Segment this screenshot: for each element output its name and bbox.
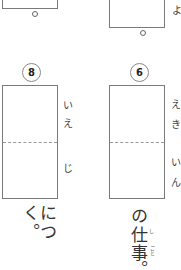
side-kana-e: え bbox=[171, 100, 181, 110]
answer-box-top-right[interactable] bbox=[109, 0, 165, 28]
side-kana-i: い bbox=[171, 158, 181, 168]
side-kana-yo: よ bbox=[172, 6, 181, 16]
answer-box-top-left[interactable] bbox=[2, 0, 58, 9]
side-kana-n: ん bbox=[171, 178, 181, 188]
furigana-shi: し bbox=[149, 229, 154, 234]
period-mark-top-left bbox=[32, 11, 38, 17]
sentence-tail-q8: につく。 bbox=[21, 204, 55, 270]
dotted-divider bbox=[3, 142, 57, 143]
dotted-divider bbox=[110, 142, 164, 143]
side-kana-ki: き bbox=[171, 120, 181, 130]
side-kana-ji: じ bbox=[63, 164, 73, 174]
period-mark-top-right bbox=[140, 30, 146, 36]
sentence-tail-shi: 仕 bbox=[129, 226, 146, 245]
side-kana-e: え bbox=[63, 119, 73, 129]
side-kana-i: い bbox=[63, 101, 73, 111]
answer-box-q6[interactable] bbox=[109, 85, 165, 199]
answer-box-q8[interactable] bbox=[2, 85, 58, 199]
question-number-6: 6 bbox=[130, 63, 149, 82]
sentence-tail-no: の bbox=[129, 207, 146, 226]
question-number-8: 8 bbox=[22, 63, 41, 82]
sentence-period: 。 bbox=[129, 260, 146, 270]
furigana-goto: ごと bbox=[149, 246, 154, 256]
